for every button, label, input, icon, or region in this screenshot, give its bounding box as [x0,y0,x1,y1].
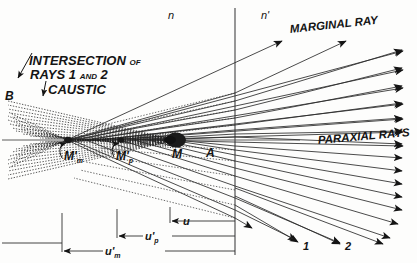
ray-number-2: 2 [345,241,351,252]
dimension-label-u-prime-p: u'p [145,231,159,244]
focal-blob-Mm [64,137,72,143]
focal-blob-Mp [118,137,124,142]
point-label-B: B [5,90,14,102]
annotation-caustic: CAUSTIC [48,83,106,96]
point-label-m-paraxial: M'p [116,150,133,164]
point-label-A: A [206,147,215,159]
rays-numbered [235,188,383,244]
optics-diagram-figure: INTERSECTION OF RAYS 1 AND 2 CAUSTIC B M… [0,0,417,263]
dimension-label-u-prime-m: u'm [105,246,121,259]
dimension-label-u: u [183,216,190,227]
focal-blob-M [164,133,186,148]
refractive-index-n: n [168,10,174,21]
point-label-M: M [172,148,182,160]
point-label-m-marginal: M'm [64,150,83,164]
annotation-intersection: INTERSECTION OF [29,54,141,67]
refractive-index-n-prime: n' [261,10,269,21]
leader-arrow-to-caustic [43,81,46,96]
ray-number-1: 1 [303,241,309,252]
annotation-rays-1-and-2: RAYS 1 AND 2 [30,68,108,81]
